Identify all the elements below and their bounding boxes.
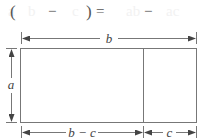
label-b: b [106,31,113,46]
top-dimension: b [22,31,197,46]
area-diagram: b a b − c c [0,0,200,139]
label-c: c [167,125,173,140]
side-dimension: a [6,49,17,123]
label-b-minus-c: b − c [68,125,96,140]
bottom-dimension-left: b − c [22,125,144,140]
label-a: a [8,77,15,92]
outer-rectangle [21,49,197,123]
bottom-dimension-right: c [145,125,197,140]
